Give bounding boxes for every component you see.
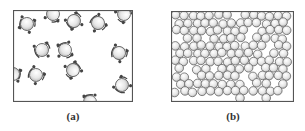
gas-molecule [86,12,108,34]
liquid-molecule [230,41,239,50]
liquid-molecule [274,25,283,34]
liquid-molecule [274,86,283,95]
molecule-sphere [113,76,131,94]
gas-molecule [107,42,129,64]
liquid-molecule [215,11,224,19]
molecule-side-group [118,59,122,63]
liquid-molecule [205,72,214,81]
liquid-molecule [269,64,278,73]
gas-molecule [32,41,51,60]
liquid-molecule [257,41,266,50]
liquid-molecule [253,33,262,42]
liquid-molecule [175,64,184,73]
liquid-molecule [265,71,274,80]
liquid-molecule [180,11,189,20]
liquid-molecule [183,49,192,58]
liquid-molecule [218,48,227,57]
liquid-molecule [210,49,219,58]
liquid-molecule [274,41,283,50]
caption-a: (a) [53,110,93,122]
liquid-molecule [236,94,245,102]
gas-molecule [55,40,74,59]
liquid-molecule [274,71,283,80]
liquid-molecule [249,87,258,96]
molecule-sphere [27,66,45,84]
liquid-molecule [244,48,253,57]
molecule-side-group [79,69,83,73]
molecule-sphere [65,12,83,30]
liquid-molecule [172,25,181,34]
liquid-molecule [252,79,261,88]
liquid-molecule [241,11,250,19]
liquid-molecule [227,19,236,28]
liquid-molecule [188,88,197,97]
panel-b-canvas [171,11,294,102]
liquid-molecule [197,71,206,80]
liquid-molecule [198,87,207,96]
molecule-sphere [64,61,82,79]
liquid-molecule [171,11,180,19]
liquid-molecule [206,87,215,96]
liquid-molecule [262,94,271,102]
liquid-molecule [214,87,223,96]
liquid-molecule [171,88,179,97]
molecule-side-group [63,18,67,22]
liquid-molecule [231,72,240,81]
liquid-molecule [197,26,206,35]
molecule-sphere [110,44,128,62]
panel-b-dense-liquid [171,11,294,102]
gas-molecule [112,10,133,25]
gas-molecule [63,10,85,32]
liquid-molecule [237,33,246,42]
gas-molecule [43,10,62,23]
liquid-molecule [193,79,202,88]
liquid-molecule [252,18,261,27]
liquid-molecule [171,42,180,51]
molecule-side-group [93,93,96,96]
liquid-molecule [261,63,270,72]
liquid-molecule [250,11,259,19]
liquid-molecule [171,56,180,65]
liquid-molecule [282,72,291,81]
molecule-side-group [33,81,38,86]
gas-molecule [62,58,84,80]
liquid-molecule [244,64,253,73]
caption-b: (b) [213,110,253,122]
gas-molecule [24,64,47,87]
liquid-molecule [183,34,192,43]
liquid-molecule [223,86,232,95]
liquid-molecule [197,56,206,65]
gas-molecule [111,74,133,97]
liquid-molecule [213,26,222,35]
molecule-sphere [89,14,107,32]
molecule-side-group [97,12,101,16]
gas-molecule [13,63,24,84]
liquid-molecule [214,71,223,80]
gas-molecule [16,14,37,35]
panel-a-canvas [13,10,133,102]
liquid-molecule [231,56,240,65]
liquid-molecule [266,25,275,34]
panel-a-sparse-gas [13,10,133,102]
liquid-molecule [279,49,288,58]
gas-molecule [81,93,97,102]
liquid-molecule [231,86,240,95]
liquid-molecule [239,86,248,95]
liquid-molecule [282,26,291,35]
liquid-molecule [279,18,288,27]
liquid-molecule [223,11,232,19]
liquid-molecule [197,41,206,50]
